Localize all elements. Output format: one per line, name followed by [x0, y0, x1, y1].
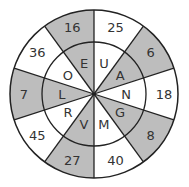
- sector-letter: M: [98, 117, 109, 132]
- puzzle-wheel: 25U6A18N8G40M27V45R7L36O16E: [0, 0, 189, 187]
- sector-number: 8: [146, 128, 154, 143]
- sector-number: 40: [107, 153, 124, 168]
- sector-letter: N: [121, 87, 131, 102]
- sector-letter: E: [80, 56, 88, 71]
- sector-letter: V: [80, 117, 89, 132]
- sector-letter: G: [115, 105, 125, 120]
- sector-number: 25: [107, 20, 124, 35]
- sector-letter: U: [99, 56, 109, 71]
- sector-letter: O: [63, 68, 73, 83]
- sector-number: 18: [156, 87, 173, 102]
- sector-number: 6: [146, 45, 154, 60]
- sector-letter: L: [58, 87, 66, 102]
- sector-number: 36: [29, 45, 46, 60]
- sector-letter: A: [116, 68, 125, 83]
- sector-number: 45: [29, 128, 46, 143]
- sector-number: 27: [64, 153, 81, 168]
- sector-number: 7: [20, 87, 28, 102]
- sector-letter: R: [63, 105, 72, 120]
- sector-number: 16: [64, 20, 81, 35]
